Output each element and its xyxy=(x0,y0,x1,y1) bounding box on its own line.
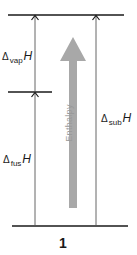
vap-subscript: vap xyxy=(10,56,23,65)
sublimation-label: ΔsubH xyxy=(101,109,131,127)
delta-symbol: Δ xyxy=(101,113,108,124)
enthalpy-axis-label: Enthalpy xyxy=(64,104,74,141)
enthalpy-variable: H xyxy=(22,152,31,166)
sub-subscript: sub xyxy=(109,118,122,127)
vaporization-label: ΔvapH xyxy=(2,47,32,65)
fusion-label: ΔfusH xyxy=(3,150,31,168)
enthalpy-variable: H xyxy=(24,49,33,63)
delta-symbol: Δ xyxy=(3,154,10,165)
fus-subscript: fus xyxy=(11,159,22,168)
figure-number: 1 xyxy=(59,235,67,251)
enthalpy-variable: H xyxy=(123,111,132,125)
delta-symbol: Δ xyxy=(2,51,9,62)
